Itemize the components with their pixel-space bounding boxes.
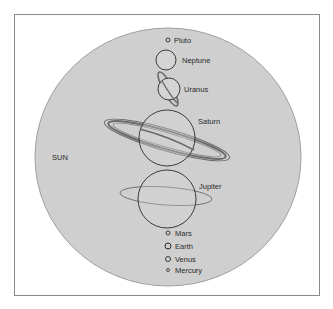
solar-system-diagram: SUN Pluto Neptune Uranus Saturn Jupiter … <box>0 0 333 309</box>
mercury-label: Mercury <box>175 266 202 275</box>
sun-label: SUN <box>52 153 68 162</box>
jupiter-label: Jupiter <box>199 182 222 191</box>
saturn-label: Saturn <box>198 117 220 126</box>
pluto-label: Pluto <box>174 36 191 45</box>
neptune-label: Neptune <box>182 56 210 65</box>
venus-label: Venus <box>175 255 196 264</box>
uranus-label: Uranus <box>184 85 208 94</box>
neptune-icon <box>156 50 176 70</box>
mars-label: Mars <box>175 229 192 238</box>
earth-label: Earth <box>175 242 193 251</box>
